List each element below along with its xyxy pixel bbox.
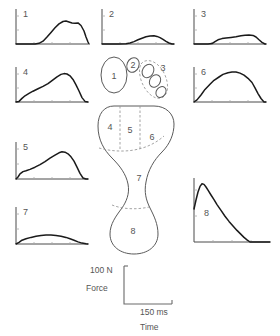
chart-label-7: 7 bbox=[23, 208, 28, 217]
foot-region-7-label: 7 bbox=[136, 173, 141, 183]
chart-panel-8: 8 bbox=[186, 174, 272, 250]
foot-region-8-label: 8 bbox=[130, 226, 135, 236]
chart-panel-6: 6 bbox=[190, 64, 268, 108]
chart-label-5: 5 bbox=[23, 143, 28, 152]
foot-toe-3a-shape bbox=[140, 62, 157, 80]
foot-region-2-label: 2 bbox=[130, 60, 135, 70]
scale-force-axis-label: Force bbox=[86, 284, 108, 293]
chart-panel-4: 4 bbox=[12, 64, 90, 108]
force-curve-1 bbox=[16, 21, 89, 44]
force-curve-5 bbox=[16, 152, 88, 179]
chart-panel-3: 3 bbox=[190, 6, 268, 50]
scale-time-magnitude: 150 ms bbox=[140, 308, 168, 317]
chart-label-8: 8 bbox=[204, 209, 209, 218]
chart-panel-7: 7 bbox=[12, 203, 90, 251]
chart-svg-8 bbox=[186, 174, 272, 250]
chart-panel-1: 1 bbox=[12, 6, 90, 50]
foot-region-6-label: 6 bbox=[149, 132, 154, 142]
scale-force-magnitude: 100 N bbox=[90, 266, 113, 275]
foot-region-3-label: 3 bbox=[160, 63, 165, 73]
scale-legend: 100 N Force 150 ms Time bbox=[84, 258, 216, 336]
force-curve-4 bbox=[16, 74, 88, 102]
chart-label-4: 4 bbox=[23, 68, 28, 77]
foot-divider-midfoot-heel bbox=[112, 205, 149, 209]
chart-panel-2: 2 bbox=[98, 6, 176, 50]
foot-diagram-svg: 1 2 3 4 5 6 7 8 bbox=[92, 48, 192, 256]
chart-label-3: 3 bbox=[201, 10, 206, 19]
chart-panel-5: 5 bbox=[12, 138, 90, 186]
chart-label-6: 6 bbox=[201, 68, 206, 77]
chart-label-2: 2 bbox=[109, 10, 114, 19]
chart-label-1: 1 bbox=[23, 10, 28, 19]
foot-region-5-label: 5 bbox=[127, 125, 132, 135]
foot-region-1-label: 1 bbox=[111, 71, 116, 81]
foot-region-4-label: 4 bbox=[107, 122, 112, 132]
scale-axes bbox=[124, 266, 172, 304]
plantar-force-figure: 1 2 3 bbox=[0, 0, 280, 336]
foot-region-diagram: 1 2 3 4 5 6 7 8 bbox=[92, 48, 192, 256]
scale-time-axis-label: Time bbox=[140, 323, 159, 332]
